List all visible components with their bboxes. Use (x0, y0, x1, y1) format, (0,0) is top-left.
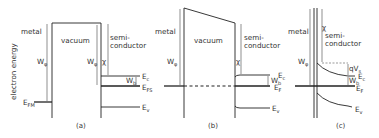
wb-label: Wb (126, 76, 136, 86)
metal-label: metal (155, 27, 176, 36)
electron-affinity-label: χ (236, 57, 240, 66)
caption-b: (b) (208, 122, 218, 130)
valence-band-edge (235, 106, 270, 108)
caption-a: (a) (76, 122, 86, 130)
fermi-label: EF (356, 84, 364, 94)
work-function-metal-label: Wφ (298, 57, 309, 68)
conduction-band-label: Ec (358, 72, 366, 82)
semiconductor-label-2: conductor (325, 39, 361, 48)
work-function-metal-label: Wφ (167, 57, 178, 68)
electron-affinity-label: χ (322, 23, 326, 32)
valence-band-edge (317, 93, 352, 107)
panel-c: metal semi- conductor Wφ χ qVs Wb Ec EF … (288, 8, 366, 130)
caption-c: (c) (336, 122, 346, 130)
panel-b: metal vacuum semi- conductor Wφ χ (b) (155, 8, 280, 130)
vacuum-label: vacuum (61, 36, 90, 45)
panel-a: metal vacuum semi- conductor Wφ Wφ χ EFM… (21, 23, 153, 130)
valence-band-label: Ev (355, 105, 363, 115)
panel-b-right-labels: Wb Ec EF Ev (271, 71, 286, 114)
y-axis-label: electron energy (9, 43, 18, 100)
electron-affinity-label: χ (102, 57, 106, 66)
conduction-band-edge (235, 75, 270, 77)
work-function-metal-label: Wφ (37, 57, 48, 68)
metal-label: metal (21, 27, 42, 36)
vacuum-label: vacuum (194, 36, 223, 45)
semiconductor-label-2: conductor (110, 41, 146, 50)
vacuum-level-line (184, 8, 235, 23)
fermi-metal-label: EFM (23, 98, 35, 108)
valence-band-label: Ev (142, 103, 150, 113)
conduction-band-label-b: Ec (278, 71, 286, 81)
semiconductor-label-2: conductor (244, 41, 280, 50)
conduction-band-label: Ec (142, 72, 150, 82)
work-function-semi-label: Wφ (87, 57, 98, 68)
metal-label: metal (288, 27, 309, 36)
band-diagram-figure: electron energy metal vacuum semi- condu… (0, 0, 379, 138)
valence-band-label-b: Ev (272, 104, 280, 114)
fermi-semi-label: EFS (142, 83, 153, 93)
